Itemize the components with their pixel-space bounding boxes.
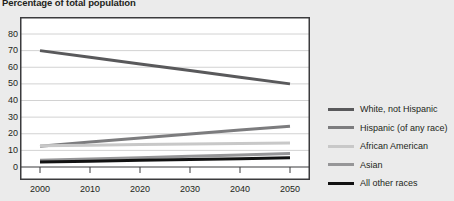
y-tick-label: 50 — [8, 79, 18, 88]
legend-item-label: All other races — [360, 178, 418, 188]
legend-item-label: Hispanic (of any race) — [360, 123, 448, 133]
plot-svg — [20, 17, 310, 180]
legend-color-swatch — [328, 182, 354, 185]
x-tick-label: 2050 — [280, 184, 300, 194]
y-axis: 01020304050607080 — [0, 17, 18, 180]
y-tick-label: 40 — [8, 96, 18, 105]
y-tick-label: 70 — [8, 46, 18, 55]
legend-item-label: Asian — [360, 160, 383, 170]
y-tick-label: 10 — [8, 146, 18, 155]
y-tick-label: 80 — [8, 30, 18, 39]
plot-area — [20, 17, 310, 180]
population-line-chart: Percentage of total population 010203040… — [0, 0, 454, 201]
legend-item-label: African American — [360, 141, 428, 151]
y-tick-label: 0 — [13, 163, 18, 172]
x-tick-label: 2020 — [130, 184, 150, 194]
legend-item[interactable]: African American — [328, 137, 452, 156]
legend-item-label: White, not Hispanic — [360, 104, 438, 114]
legend-color-swatch — [328, 108, 354, 111]
legend-item[interactable]: Asian — [328, 156, 452, 175]
x-tick-label: 2010 — [80, 184, 100, 194]
x-tick-label: 2000 — [30, 184, 50, 194]
chart-title: Percentage of total population — [2, 0, 136, 8]
y-tick-label: 20 — [8, 129, 18, 138]
x-tick-label: 2040 — [230, 184, 250, 194]
chart-legend: White, not HispanicHispanic (of any race… — [328, 100, 452, 193]
legend-color-swatch — [328, 163, 354, 166]
legend-color-swatch — [328, 126, 354, 129]
legend-color-swatch — [328, 145, 354, 148]
legend-item[interactable]: All other races — [328, 174, 452, 193]
legend-item[interactable]: Hispanic (of any race) — [328, 119, 452, 138]
legend-item[interactable]: White, not Hispanic — [328, 100, 452, 119]
x-tick-label: 2030 — [180, 184, 200, 194]
y-tick-label: 60 — [8, 63, 18, 72]
x-axis: 200020102020203020402050 — [20, 184, 310, 198]
y-tick-label: 30 — [8, 113, 18, 122]
